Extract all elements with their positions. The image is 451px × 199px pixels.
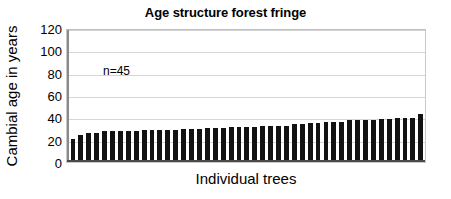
- bar: [118, 131, 123, 160]
- bar: [78, 135, 83, 160]
- bar-slot: [188, 30, 196, 160]
- bar: [142, 130, 147, 160]
- bar: [229, 127, 234, 160]
- bar: [339, 122, 344, 161]
- bar: [126, 131, 131, 160]
- bar: [418, 114, 423, 160]
- y-axis-tick-labels: 120100806040200: [24, 0, 62, 199]
- bar: [387, 119, 392, 160]
- bar-slot: [290, 30, 298, 160]
- bar: [213, 128, 218, 160]
- bar-series: [69, 30, 425, 160]
- bar: [379, 119, 384, 160]
- bar-slot: [369, 30, 377, 160]
- chart-title: Age structure forest fringe: [0, 5, 451, 20]
- bar: [205, 128, 210, 160]
- bar-slot: [243, 30, 251, 160]
- bar-slot: [132, 30, 140, 160]
- bar-slot: [377, 30, 385, 160]
- plot-area: n=45: [66, 29, 426, 163]
- bar-slot: [346, 30, 354, 160]
- bar: [165, 130, 170, 160]
- x-axis-label: Individual trees: [66, 170, 426, 187]
- sample-size-annotation: n=45: [103, 64, 130, 78]
- y-axis-label: Cambial age in years: [3, 26, 20, 167]
- bar-slot: [203, 30, 211, 160]
- bar: [395, 118, 400, 160]
- y-axis-tick-label: 80: [28, 67, 62, 80]
- bar: [410, 118, 415, 160]
- bar-slot: [93, 30, 101, 160]
- y-axis-tick-label: 60: [28, 90, 62, 103]
- bar-slot: [314, 30, 322, 160]
- bar-slot: [219, 30, 227, 160]
- bar-slot: [267, 30, 275, 160]
- bar-slot: [259, 30, 267, 160]
- bar: [197, 129, 202, 160]
- bar: [134, 131, 139, 160]
- bar-slot: [338, 30, 346, 160]
- bar: [102, 131, 107, 160]
- bar: [244, 127, 249, 160]
- bar-slot: [298, 30, 306, 160]
- bar-slot: [306, 30, 314, 160]
- bar-slot: [362, 30, 370, 160]
- bar-slot: [196, 30, 204, 160]
- x-axis-line: [67, 160, 425, 162]
- bar-slot: [109, 30, 117, 160]
- bar: [371, 120, 376, 160]
- bar-slot: [164, 30, 172, 160]
- chart-figure: Age structure forest fringe Cambial age …: [0, 0, 451, 199]
- bar-slot: [354, 30, 362, 160]
- bar-slot: [211, 30, 219, 160]
- bar-slot: [417, 30, 425, 160]
- bar-slot: [180, 30, 188, 160]
- bar-slot: [140, 30, 148, 160]
- bar-slot: [330, 30, 338, 160]
- bar: [94, 133, 99, 161]
- bar-slot: [235, 30, 243, 160]
- bar: [71, 139, 76, 160]
- y-axis-label-container: Cambial age in years: [0, 29, 22, 163]
- bar: [86, 133, 91, 161]
- bar: [150, 130, 155, 160]
- bar-slot: [124, 30, 132, 160]
- bar-slot: [401, 30, 409, 160]
- bar-slot: [69, 30, 77, 160]
- bar-slot: [385, 30, 393, 160]
- bar: [173, 130, 178, 160]
- bar: [181, 129, 186, 160]
- bar-slot: [77, 30, 85, 160]
- bar: [316, 123, 321, 160]
- bar: [260, 126, 265, 160]
- bar-slot: [393, 30, 401, 160]
- bar: [331, 122, 336, 161]
- bar: [308, 123, 313, 160]
- bar-slot: [148, 30, 156, 160]
- bar-slot: [156, 30, 164, 160]
- bar: [324, 122, 329, 161]
- y-axis-tick-label: 100: [28, 45, 62, 58]
- bar-slot: [116, 30, 124, 160]
- y-axis-tick-label: 20: [28, 134, 62, 147]
- bar: [252, 127, 257, 160]
- bar-slot: [409, 30, 417, 160]
- bar-slot: [282, 30, 290, 160]
- bar: [284, 126, 289, 160]
- bar: [237, 127, 242, 160]
- bar: [363, 120, 368, 160]
- bar: [300, 124, 305, 160]
- bar: [347, 120, 352, 160]
- bar-slot: [275, 30, 283, 160]
- bar-slot: [85, 30, 93, 160]
- bar: [403, 118, 408, 160]
- bar-slot: [172, 30, 180, 160]
- bar: [221, 128, 226, 160]
- bar: [189, 129, 194, 160]
- bar-slot: [251, 30, 259, 160]
- bar: [110, 131, 115, 160]
- bar: [355, 120, 360, 160]
- bar-slot: [322, 30, 330, 160]
- bar: [268, 126, 273, 160]
- bar-slot: [227, 30, 235, 160]
